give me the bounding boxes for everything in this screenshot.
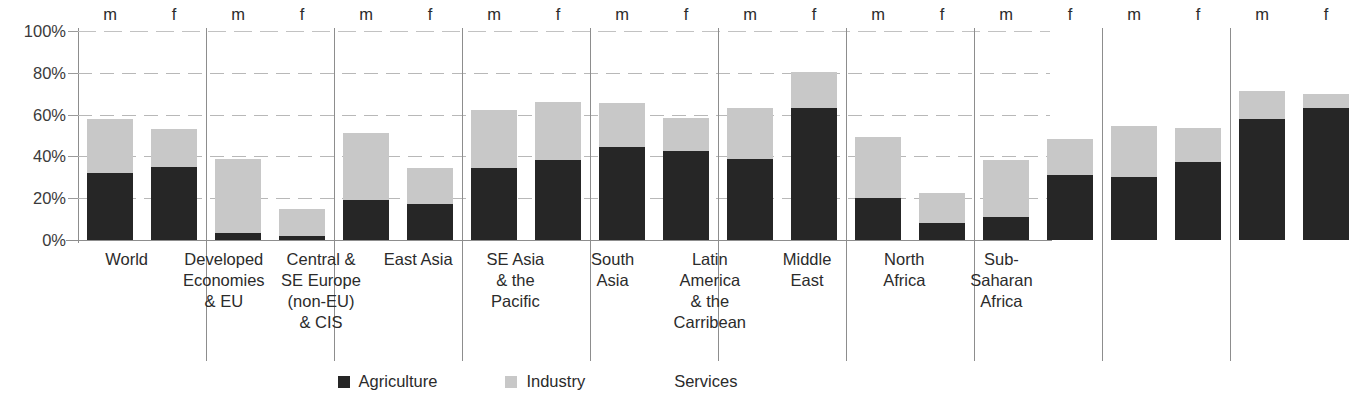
bar-segment-agriculture[interactable] — [343, 200, 389, 240]
bar-segment-agriculture[interactable] — [535, 160, 581, 240]
bar-slot-f[interactable]: f — [1175, 31, 1221, 240]
bar-segment-industry[interactable] — [471, 110, 517, 167]
bar-slot-m[interactable]: m — [215, 31, 261, 240]
category-label-line: Saharan — [955, 270, 1048, 291]
sex-label-f: f — [791, 5, 837, 24]
stacked-bar[interactable] — [535, 102, 581, 240]
bar-segment-agriculture[interactable] — [727, 159, 773, 241]
bar-segment-industry[interactable] — [215, 159, 261, 233]
legend-item[interactable]: Agriculture — [338, 372, 438, 391]
stacked-bar[interactable] — [663, 118, 709, 240]
bar-segment-industry[interactable] — [535, 102, 581, 159]
stacked-bar[interactable] — [1303, 94, 1349, 240]
bar-slot-f[interactable]: f — [1303, 31, 1349, 240]
bar-segment-agriculture[interactable] — [919, 223, 965, 240]
bar-segment-industry[interactable] — [599, 103, 645, 147]
stacked-bar[interactable] — [855, 137, 901, 240]
stacked-bar[interactable] — [279, 209, 325, 240]
bar-segment-agriculture[interactable] — [87, 173, 133, 240]
bar-segment-industry[interactable] — [1303, 94, 1349, 109]
bar-segment-agriculture[interactable] — [1111, 177, 1157, 240]
bar-slot-m[interactable]: m — [343, 31, 389, 240]
category-label-line: Asia — [566, 270, 659, 291]
bar-segment-industry[interactable] — [791, 72, 837, 109]
bar-segment-industry[interactable] — [1047, 139, 1093, 176]
stacked-bar[interactable] — [471, 110, 517, 240]
bar-slot-m[interactable]: m — [87, 31, 133, 240]
bar-segment-industry[interactable] — [1175, 128, 1221, 161]
bar-segment-agriculture[interactable] — [1175, 162, 1221, 240]
stacked-bar[interactable] — [1111, 126, 1157, 240]
y-axis-tick-label: 100% — [24, 22, 66, 41]
bar-segment-agriculture[interactable] — [407, 204, 453, 240]
bar-slot-f[interactable]: f — [1047, 31, 1093, 240]
sex-label-m: m — [1239, 5, 1285, 24]
bar-segment-industry[interactable] — [87, 119, 133, 173]
bar-segment-industry[interactable] — [151, 129, 197, 167]
stacked-bar[interactable] — [983, 160, 1029, 240]
stacked-bar[interactable] — [151, 129, 197, 240]
bar-segment-agriculture[interactable] — [215, 233, 261, 240]
bar-segment-agriculture[interactable] — [279, 236, 325, 240]
sex-label-f: f — [1303, 5, 1349, 24]
stacked-bar[interactable] — [407, 168, 453, 240]
bar-slot-m[interactable]: m — [599, 31, 645, 240]
bar-slot-m[interactable]: m — [1111, 31, 1157, 240]
bar-segment-industry[interactable] — [919, 193, 965, 223]
stacked-bar[interactable] — [599, 103, 645, 240]
bar-segment-agriculture[interactable] — [983, 217, 1029, 240]
bar-segment-agriculture[interactable] — [1047, 175, 1093, 240]
category-label-line: (non-EU) — [274, 291, 367, 312]
stacked-bar[interactable] — [215, 159, 261, 241]
bar-segment-industry[interactable] — [663, 118, 709, 151]
bar-slot-f[interactable]: f — [535, 31, 581, 240]
bar-segment-agriculture[interactable] — [599, 147, 645, 240]
bar-segment-agriculture[interactable] — [1303, 108, 1349, 240]
bar-slot-m[interactable]: m — [983, 31, 1029, 240]
stacked-bar[interactable] — [1047, 139, 1093, 240]
bar-segment-industry[interactable] — [855, 137, 901, 199]
bar-slot-f[interactable]: f — [919, 31, 965, 240]
bar-segment-agriculture[interactable] — [791, 108, 837, 240]
legend-item[interactable]: Industry — [505, 372, 585, 391]
bar-slot-f[interactable]: f — [151, 31, 197, 240]
bar-slot-m[interactable]: m — [855, 31, 901, 240]
bar-segment-industry[interactable] — [279, 209, 325, 236]
stacked-bar[interactable] — [1175, 128, 1221, 240]
y-axis: 0%20%40%60%80%100% — [0, 0, 66, 416]
stacked-bar[interactable] — [791, 72, 837, 240]
bar-segment-industry[interactable] — [983, 160, 1029, 217]
legend-item[interactable]: Services — [653, 372, 737, 391]
category-label: Central &SE Europe(non-EU)& CIS — [272, 245, 369, 365]
bar-segment-industry[interactable] — [1111, 126, 1157, 177]
bar-segment-agriculture[interactable] — [1239, 119, 1285, 240]
category-label-line: America — [663, 270, 756, 291]
stacked-bar[interactable] — [919, 193, 965, 240]
bar-slot-f[interactable]: f — [407, 31, 453, 240]
bar-slot-m[interactable]: m — [1239, 31, 1285, 240]
bar-segment-agriculture[interactable] — [855, 198, 901, 240]
sex-label-f: f — [535, 5, 581, 24]
bar-slot-m[interactable]: m — [727, 31, 773, 240]
legend-label: Industry — [526, 372, 585, 391]
bar-slot-m[interactable]: m — [471, 31, 517, 240]
stacked-bar[interactable] — [727, 108, 773, 240]
sex-label-f: f — [407, 5, 453, 24]
bar-segment-industry[interactable] — [1239, 91, 1285, 119]
bar-segment-industry[interactable] — [407, 168, 453, 205]
bar-slot-f[interactable]: f — [279, 31, 325, 240]
bar-segment-agriculture[interactable] — [151, 167, 197, 240]
bar-segment-agriculture[interactable] — [471, 168, 517, 240]
bar-slot-f[interactable]: f — [791, 31, 837, 240]
bar-segment-industry[interactable] — [343, 133, 389, 200]
category-label-line: Carribean — [663, 312, 756, 333]
bar-groups: mfmfmfmfmfmfmfmfmfmf — [78, 31, 1050, 240]
y-axis-tick-label: 20% — [33, 189, 66, 208]
stacked-bar[interactable] — [1239, 91, 1285, 240]
bar-slot-f[interactable]: f — [663, 31, 709, 240]
stacked-bar[interactable] — [87, 119, 133, 240]
bar-segment-agriculture[interactable] — [663, 151, 709, 240]
stacked-bar[interactable] — [343, 133, 389, 240]
bar-segment-industry[interactable] — [727, 108, 773, 158]
